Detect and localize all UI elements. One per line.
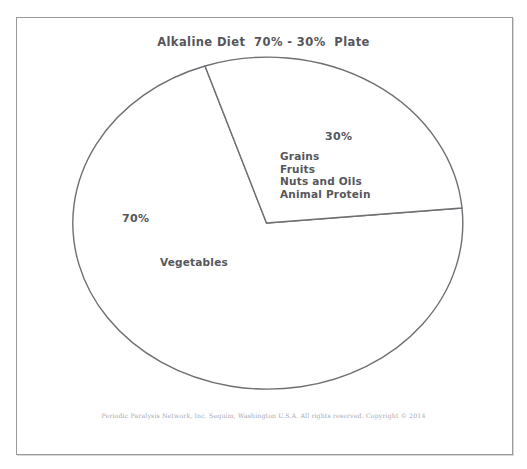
chart-title: Alkaline Diet 70% - 30% Plate (0, 35, 527, 49)
slice-percent-label-seventy: 70% (122, 212, 149, 225)
footer-copyright: Periodic Paralysis Network, Inc. Sequim,… (0, 412, 527, 419)
pie-chart: Alkaline Diet 70% - 30% Plate 30% Grains… (0, 0, 527, 469)
slice-label-vegetables: Vegetables (160, 256, 228, 268)
slice-percent-label-thirty: 30% (325, 130, 352, 143)
slice-item-grains: Grains (280, 150, 371, 163)
slice-items-thirty: Grains Fruits Nuts and Oils Animal Prote… (280, 150, 371, 200)
pie-chart-svg (0, 0, 527, 469)
slice-item-animal-protein: Animal Protein (280, 188, 371, 201)
slice-item-fruits: Fruits (280, 163, 371, 176)
slice-item-nuts-and-oils: Nuts and Oils (280, 175, 371, 188)
